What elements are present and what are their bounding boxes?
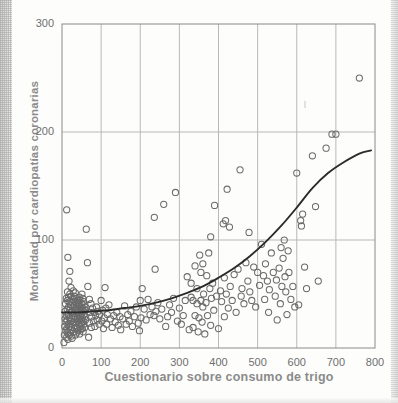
scatter-point [251,264,257,270]
scatter-point [229,297,235,303]
scatter-point [303,286,309,292]
scatter-point [246,229,252,235]
scatter-point [188,280,194,286]
scatter-point [163,323,169,329]
scatter-point [102,284,108,290]
scatter-point [202,331,208,337]
scatter-point [224,186,230,192]
scatter-point [195,329,201,335]
scatter-points-group [61,75,363,346]
scatter-point [151,214,157,220]
scatter-point [204,313,210,319]
x-tick-label: 0 [42,356,82,368]
scatter-point [141,306,147,312]
scatter-point [203,300,209,306]
scatter-point [168,309,174,315]
scatter-point [225,305,231,311]
scatter-point [265,309,271,315]
scatter-point [278,244,284,250]
scatter-point [262,261,268,267]
scatter-point [199,319,205,325]
scatter-point [219,298,225,304]
scatter-point [223,291,229,297]
x-axis-title: Cuestionario sobre consumo de trigo [62,370,376,384]
scatter-point [356,75,362,81]
scatter-point [66,278,72,284]
scatter-chart-figure: Mortalidad por cardiopatías coronarias C… [0,0,398,403]
scatter-point [237,167,243,173]
scatter-point [290,283,296,289]
scatter-point [208,322,214,328]
scatter-point [157,316,163,322]
x-tick-label: 400 [199,356,239,368]
scatter-point [159,306,165,312]
scatter-point [180,313,186,319]
scatter-point [266,287,272,293]
scatter-point [200,304,206,310]
scatter-point [283,289,289,295]
scatter-point [288,296,294,302]
scatter-point [86,334,92,340]
scatter-point [161,201,167,207]
scatter-point [239,286,245,292]
y-tick-label: 100 [20,233,54,245]
scatter-point [182,297,188,303]
scatter-point [276,265,282,271]
scatter-point [83,226,89,232]
scatter-point [301,264,307,270]
scatter-point [211,307,217,313]
scatter-point [131,314,137,320]
y-tick-label: 200 [20,125,54,137]
grid-lines [62,24,375,348]
scatter-point [279,283,285,289]
scatter-point [201,291,207,297]
scatter-point [273,277,279,283]
scatter-point [227,283,233,289]
scatter-point [85,283,91,289]
scatter-point [280,255,286,261]
scatter-point [249,297,255,303]
scatter-point [129,323,135,329]
scatter-point [152,266,158,272]
scatter-point [208,234,214,240]
x-tick-label: 200 [120,356,160,368]
scatter-point [274,317,280,323]
x-tick-label: 100 [81,356,121,368]
scatter-point [300,211,306,217]
scatter-point [211,202,217,208]
scatter-point [65,254,71,260]
scatter-point [262,296,268,302]
scatter-point [194,301,200,307]
scatter-point [238,293,244,299]
scatter-point [285,248,291,254]
x-tick-label: 800 [355,356,395,368]
scatter-point [206,250,212,256]
x-tick-label: 600 [277,356,317,368]
scatter-point [64,207,70,213]
scatter-point [197,252,203,258]
scatter-point [312,203,318,209]
scatter-point [200,261,206,267]
scatter-point [136,328,142,334]
scatter-point [192,263,198,269]
scatter-point [268,250,274,256]
scatter-point [241,301,247,307]
scatter-point [286,269,292,275]
scatter-point [277,301,283,307]
scatter-point [247,289,253,295]
scatter-point [231,271,237,277]
scatter-point [309,153,315,159]
scatter-point [272,293,278,299]
y-tick-label: 300 [20,17,54,29]
plot-canvas [0,0,398,403]
x-tick-label: 500 [238,356,278,368]
scatter-point [166,302,172,308]
scatter-point [143,317,149,323]
scatter-point [270,269,276,275]
scatter-point [264,278,270,284]
scatter-point [204,273,210,279]
scatter-point [147,311,153,317]
x-tick-label: 700 [316,356,356,368]
x-tick-label: 300 [159,356,199,368]
scatter-point [284,311,290,317]
